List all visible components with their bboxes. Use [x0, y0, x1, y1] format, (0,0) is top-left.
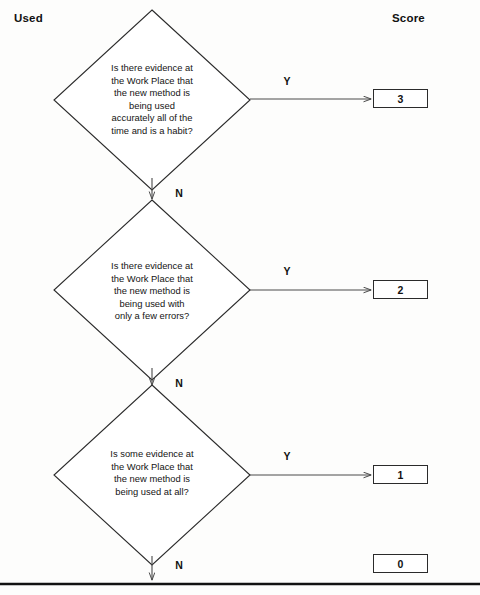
diamond-1-line-6: time and is a habit? — [90, 125, 214, 138]
diamond-2-line-3: the new method is — [90, 285, 214, 298]
flowchart-page: Used Score Is there evidence at the Work… — [0, 0, 480, 595]
branch-label-q3-no: N — [175, 559, 183, 571]
score-box-2: 2 — [373, 280, 428, 299]
decision-diamond-2-text: Is there evidence at the Work Place that… — [90, 260, 214, 323]
diamond-1-line-5: accurately all of the — [90, 113, 214, 126]
diamond-3-line-3: the new method is — [90, 473, 214, 486]
score-box-3: 3 — [373, 89, 428, 108]
decision-diamond-1-text: Is there evidence at the Work Place that… — [90, 62, 214, 138]
branch-label-q3-yes: Y — [283, 450, 290, 462]
diamond-2-line-5: only a few errors? — [90, 310, 214, 323]
score-box-0: 0 — [373, 554, 428, 573]
diamond-3-line-4: being used at all? — [90, 486, 214, 499]
diamond-2-line-4: being used with — [90, 297, 214, 310]
diamond-3-line-2: the Work Place that — [90, 460, 214, 473]
diamond-1-line-2: the Work Place that — [90, 75, 214, 88]
diamond-3-line-1: Is some evidence at — [90, 448, 214, 461]
diamond-2-line-1: Is there evidence at — [90, 260, 214, 273]
branch-label-q1-no: N — [175, 187, 183, 199]
diamond-2-line-2: the Work Place that — [90, 272, 214, 285]
diamond-1-line-4: being used — [90, 100, 214, 113]
decision-diamond-3-text: Is some evidence at the Work Place that … — [90, 448, 214, 498]
branch-label-q2-yes: Y — [283, 265, 290, 277]
branch-label-q2-no: N — [175, 377, 183, 389]
diamond-1-line-3: the new method is — [90, 87, 214, 100]
diamond-1-line-1: Is there evidence at — [90, 62, 214, 75]
score-box-1: 1 — [373, 465, 428, 484]
branch-label-q1-yes: Y — [283, 75, 290, 87]
